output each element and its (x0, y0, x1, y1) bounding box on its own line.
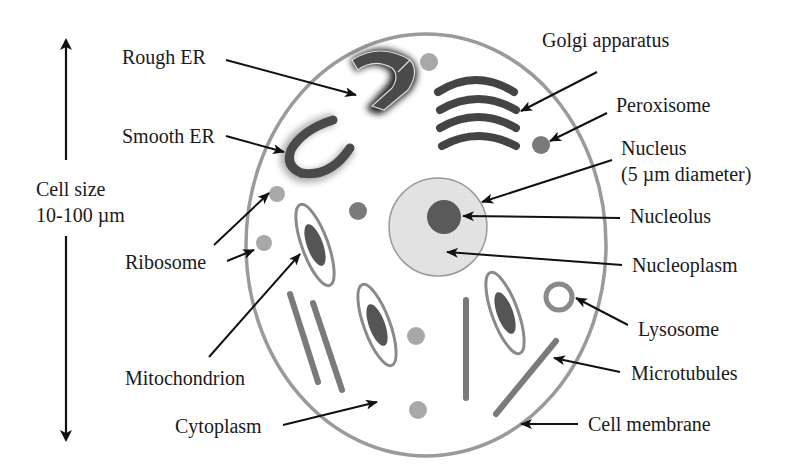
label-nucleus-line2: (5 µm diameter) (621, 163, 751, 185)
cell-size-arrow (60, 38, 72, 442)
ribosome-dot (409, 401, 427, 419)
ribosome-dot (269, 186, 285, 202)
ribosome-dot (256, 235, 272, 251)
label-mitochondrion: Mitochondrion (125, 367, 245, 389)
ribosome-dot (349, 202, 367, 220)
cell-size-line1: Cell size (36, 178, 125, 200)
label-nucleus: Nucleus (5 µm diameter) (621, 137, 751, 185)
cell-illustration (0, 0, 798, 474)
label-nucleoplasm: Nucleoplasm (632, 254, 738, 276)
label-peroxisome: Peroxisome (616, 94, 710, 116)
ribosome-dot (420, 53, 438, 71)
cell-size-line2: 10-100 µm (36, 204, 125, 226)
peroxisome-icon (532, 136, 550, 154)
label-ribosome: Ribosome (125, 251, 206, 273)
label-rough-er: Rough ER (122, 46, 206, 68)
label-nucleus-line1: Nucleus (621, 137, 751, 159)
label-smooth-er: Smooth ER (122, 125, 215, 147)
label-golgi-apparatus: Golgi apparatus (542, 29, 669, 51)
nucleolus-icon (427, 200, 461, 234)
cell-diagram: Cell size 10-100 µm Rough ER Smooth ER R… (0, 0, 798, 474)
nucleus-icon (389, 178, 487, 276)
cell-size-label: Cell size 10-100 µm (36, 178, 125, 226)
label-nucleolus: Nucleolus (630, 205, 711, 227)
label-microtubules: Microtubules (631, 362, 738, 384)
label-cytoplasm: Cytoplasm (175, 415, 262, 437)
label-cell-membrane: Cell membrane (588, 413, 711, 435)
label-lysosome: Lysosome (638, 318, 719, 340)
ribosome-dot (407, 327, 425, 345)
